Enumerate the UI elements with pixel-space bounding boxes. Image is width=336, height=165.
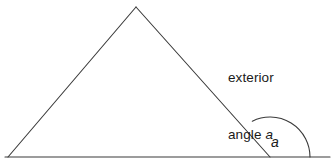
geometry-figure (0, 0, 336, 165)
callout-line-2-prefix: angle (228, 127, 265, 142)
angle-variable-label: a (271, 135, 279, 149)
triangle-left-side (8, 7, 136, 157)
exterior-angle-callout: exterior angle a (228, 30, 274, 165)
callout-line-2: angle a (228, 125, 274, 144)
exterior-angle-diagram: exterior angle a a (0, 0, 336, 165)
callout-line-1: exterior (228, 68, 274, 87)
